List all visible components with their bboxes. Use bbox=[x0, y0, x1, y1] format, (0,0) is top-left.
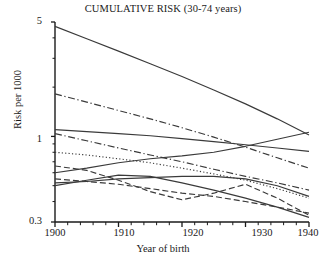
chart-figure: CUMULATIVE RISK (30-74 years) Risk per 1… bbox=[0, 0, 326, 260]
data-series-group bbox=[55, 26, 309, 217]
plot-area bbox=[0, 0, 326, 260]
data-line-series-1 bbox=[55, 26, 309, 135]
data-line-series-8 bbox=[55, 166, 309, 215]
data-line-series-5 bbox=[55, 152, 309, 198]
data-line-series-2 bbox=[55, 94, 309, 168]
axes bbox=[51, 22, 309, 227]
